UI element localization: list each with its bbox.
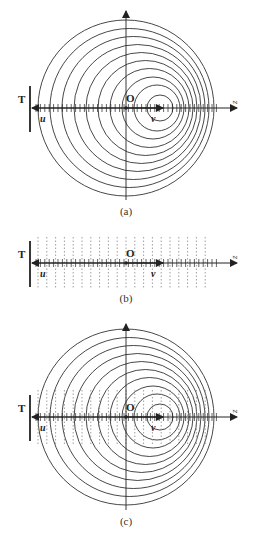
origin-point — [124, 415, 128, 419]
caption-c: (c) — [106, 515, 146, 527]
origin-label: O — [126, 247, 135, 259]
panel-c: T O z u v — [18, 324, 239, 510]
origin-point — [124, 261, 128, 265]
axes — [30, 324, 237, 510]
axis-z-label: z — [229, 100, 239, 105]
caption-a: (a) — [106, 205, 146, 217]
wall-label: T — [18, 248, 26, 260]
panel-a: T O z u v — [18, 11, 239, 200]
origin-label: O — [126, 401, 135, 413]
figure-canvas: T O z u v T O z u v T O z u v — [0, 0, 256, 540]
origin-label: O — [126, 92, 135, 104]
velocity-v-label: v — [151, 113, 156, 124]
wall-label: T — [18, 402, 26, 414]
velocity-u-label: u — [40, 422, 46, 433]
origin-point — [124, 106, 128, 110]
velocity-u-label: u — [40, 113, 46, 124]
wall-label: T — [18, 93, 26, 105]
caption-b: (b) — [106, 292, 146, 304]
velocity-v-label: v — [151, 268, 156, 279]
axis-z-label: z — [229, 255, 239, 260]
velocity-u-label: u — [40, 268, 46, 279]
panel-b: T O z u v — [18, 237, 239, 289]
axis-z-label: z — [229, 409, 239, 414]
velocity-v-label: v — [151, 422, 156, 433]
